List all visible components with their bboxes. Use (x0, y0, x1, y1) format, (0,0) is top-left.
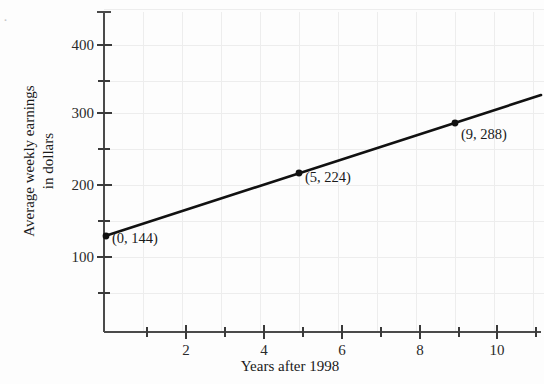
x-tick-label-10: 10 (490, 343, 505, 358)
x-tick-label-4: 4 (260, 343, 268, 358)
point-label-2: (9, 288) (461, 127, 507, 142)
point-label-0: (0, 144) (112, 231, 158, 246)
data-line (105, 95, 541, 236)
y-axis-title: Average weekly earnings in dollars (17, 36, 61, 286)
x-tick-label-6: 6 (338, 343, 346, 358)
x-tick-label-2: 2 (182, 343, 190, 358)
data-point-2 (452, 120, 459, 127)
data-point-1 (296, 170, 303, 177)
x-tick-label-8: 8 (416, 343, 424, 358)
figure-canvas: · (0, 0, 544, 384)
data-point-0 (103, 233, 110, 240)
x-axis-title: Years after 1998 (241, 358, 339, 375)
y-axis-title-line-2: in dollars (40, 133, 56, 189)
line-chart: 400 300 200 100 2 4 6 8 10 (0, 144) (5, … (0, 0, 544, 384)
point-label-1: (5, 224) (305, 170, 351, 185)
y-axis-title-line-1: Average weekly earnings (21, 85, 37, 236)
